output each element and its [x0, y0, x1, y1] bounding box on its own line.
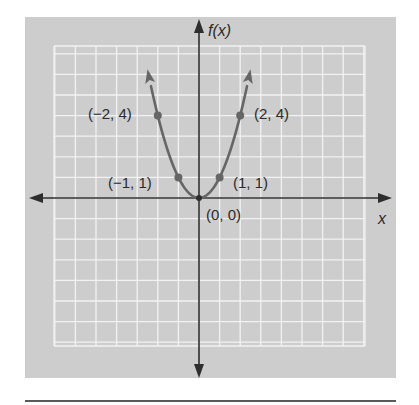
bottom-rule-divider [25, 400, 396, 402]
x-axis-label: x [377, 210, 387, 227]
data-point-marker [236, 112, 244, 120]
point-label-neg2-4: (−2, 4) [88, 105, 132, 122]
point-label-neg1-1: (−1, 1) [108, 174, 152, 191]
data-point-marker [196, 195, 202, 201]
data-point-marker [216, 173, 224, 181]
point-label-2-4: (2, 4) [254, 105, 289, 122]
y-axis-label: f(x) [208, 22, 231, 39]
point-label-1-1: (1, 1) [233, 174, 268, 191]
point-label-0-0: (0, 0) [206, 206, 241, 223]
parabola-graph: f(x) x (−2, 4) (2, 4) (−1, 1) (1, 1) (0,… [0, 0, 419, 405]
data-point-marker [174, 173, 182, 181]
data-point-marker [154, 112, 162, 120]
